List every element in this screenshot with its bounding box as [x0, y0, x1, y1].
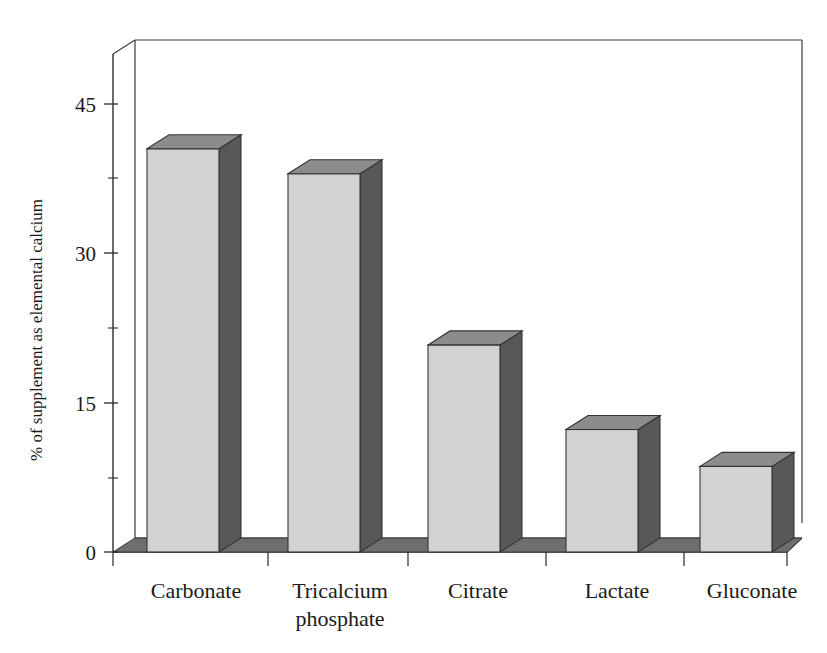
x-axis-label-gluconate: Gluconate: [707, 578, 797, 603]
bar-side-face: [638, 416, 660, 552]
bar-front-face: [288, 174, 360, 552]
bars-group: [147, 135, 794, 552]
x-axis-label-citrate: Citrate: [448, 578, 508, 603]
y-axis-tick-labels: 45 30 15 0: [75, 93, 96, 565]
x-axis-label-phosphate: phosphate: [295, 606, 384, 631]
bar-front-face: [566, 430, 638, 552]
bar-chart-svg: 45 30 15 0 % of supplement as elemental …: [0, 0, 827, 653]
y-tick-label-0: 0: [86, 541, 97, 565]
x-axis-label-carbonate: Carbonate: [151, 578, 241, 603]
y-axis-ticks: [104, 104, 118, 552]
bar-citrate: [428, 331, 522, 552]
y-axis-title: % of supplement as elemental calcium: [27, 199, 46, 461]
frame-depth-diagonal-top: [113, 40, 135, 54]
bar-gluconate: [700, 452, 794, 552]
chart-figure: 45 30 15 0 % of supplement as elemental …: [0, 0, 827, 653]
bar-lactate: [566, 416, 660, 552]
x-axis-label-lactate: Lactate: [585, 578, 650, 603]
y-axis-title-group: % of supplement as elemental calcium: [27, 199, 46, 461]
bar-side-face: [360, 160, 382, 552]
bar-carbonate: [147, 135, 241, 552]
bar-side-face: [772, 452, 794, 552]
y-tick-label-45: 45: [75, 93, 96, 117]
bar-front-face: [700, 466, 772, 552]
y-tick-label-30: 30: [75, 242, 96, 266]
bar-tricalcium-phosphate: [288, 160, 382, 552]
x-axis-label-tricalcium: Tricalcium: [292, 578, 388, 603]
y-tick-label-15: 15: [75, 392, 96, 416]
bar-side-face: [219, 135, 241, 552]
bar-side-face: [500, 331, 522, 552]
bar-front-face: [428, 345, 500, 552]
bar-front-face: [147, 149, 219, 552]
x-axis-labels-group: CarbonateTricalciumphosphateCitrateLacta…: [113, 552, 797, 631]
